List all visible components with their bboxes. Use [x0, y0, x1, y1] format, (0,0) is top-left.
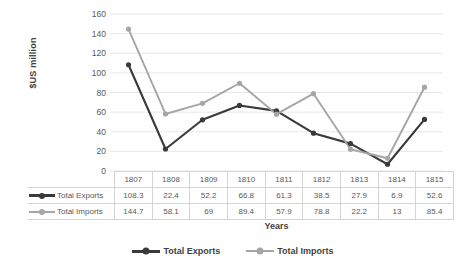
y-axis-tick-labels: 020406080100120140160 — [70, 14, 106, 171]
table-cell: 22.4 — [152, 188, 190, 204]
data-point — [237, 81, 242, 86]
table-cell: 144.7 — [115, 204, 153, 220]
legend-item-exports[interactable]: Total Exports — [132, 246, 220, 256]
data-point — [126, 62, 131, 67]
series-key-label: Total Imports — [55, 207, 103, 216]
series-key-line-icon — [29, 211, 55, 213]
table-cell: 22.2 — [340, 204, 378, 220]
data-point — [385, 156, 390, 161]
legend-label: Total Imports — [277, 246, 333, 256]
data-point — [385, 162, 390, 167]
table-year-header: 1810 — [227, 172, 265, 188]
table-cell: 61.3 — [265, 188, 303, 204]
series-key-imports: Total Imports — [29, 207, 103, 216]
data-point — [163, 146, 168, 151]
table-cell: 58.1 — [152, 204, 190, 220]
table-year-header: 1808 — [152, 172, 190, 188]
y-tick-label: 100 — [72, 68, 106, 78]
table-cell: 69 — [190, 204, 228, 220]
plot-area — [110, 14, 443, 171]
y-tick-label: 80 — [72, 88, 106, 98]
data-point — [348, 147, 353, 152]
table-cell: 38.5 — [303, 188, 341, 204]
legend-item-imports[interactable]: Total Imports — [246, 246, 333, 256]
table-cell: 85.4 — [416, 204, 454, 220]
series-line-total-imports — [129, 29, 425, 158]
table-year-header: 1815 — [416, 172, 454, 188]
y-tick-label: 160 — [72, 9, 106, 19]
table-row: Total Imports144.758.16989.457.978.822.2… — [28, 204, 453, 220]
series-lines — [129, 29, 425, 164]
data-point — [274, 112, 279, 117]
data-point — [311, 91, 316, 96]
data-point — [237, 103, 242, 108]
table-row: Total Exports108.322.452.266.861.338.527… — [28, 188, 453, 204]
table-cell: 89.4 — [227, 204, 265, 220]
table-corner-cell — [28, 172, 115, 188]
table-cell: 52.2 — [190, 188, 228, 204]
data-point — [422, 117, 427, 122]
table-cell: 108.3 — [115, 188, 153, 204]
table-year-header: 1813 — [340, 172, 378, 188]
line-chart-svg — [110, 14, 443, 171]
table-year-header: 1811 — [265, 172, 303, 188]
legend-line-icon — [132, 250, 160, 253]
table-cell: 57.9 — [265, 204, 303, 220]
legend-marker-icon — [143, 248, 150, 255]
legend-label: Total Exports — [163, 246, 220, 256]
data-table: 180718081809181018111812181318141815Tota… — [28, 171, 454, 220]
table-year-header: 1807 — [115, 172, 153, 188]
data-point — [422, 85, 427, 90]
data-point — [200, 117, 205, 122]
data-point — [311, 131, 316, 136]
table-cell: 6.9 — [378, 188, 416, 204]
x-axis-title: Years — [110, 221, 443, 231]
table-year-header: 1812 — [303, 172, 341, 188]
series-key-marker-icon — [39, 209, 45, 215]
data-point — [200, 101, 205, 106]
series-key-line-icon — [29, 194, 55, 197]
y-axis-title: $US million — [28, 8, 38, 118]
chart-figure: $US million 020406080100120140160 180718… — [0, 0, 466, 268]
legend-line-icon — [246, 250, 274, 253]
legend-marker-icon — [257, 248, 264, 255]
table-cell: 78.8 — [303, 204, 341, 220]
y-tick-label: 140 — [72, 29, 106, 39]
chart-legend: Total ExportsTotal Imports — [0, 246, 466, 256]
table-row-header: Total Imports — [28, 204, 115, 220]
y-tick-label: 120 — [72, 48, 106, 58]
table-cell: 52.6 — [416, 188, 454, 204]
table-cell: 66.8 — [227, 188, 265, 204]
table-year-header: 1814 — [378, 172, 416, 188]
table-header-row: 180718081809181018111812181318141815 — [28, 172, 453, 188]
series-key-label: Total Exports — [55, 191, 103, 200]
series-key-marker-icon — [39, 193, 45, 199]
y-tick-label: 40 — [72, 127, 106, 137]
data-point — [126, 26, 131, 31]
y-tick-label: 20 — [72, 146, 106, 156]
table-cell: 13 — [378, 204, 416, 220]
y-tick-label: 60 — [72, 107, 106, 117]
data-point — [163, 111, 168, 116]
table-year-header: 1809 — [190, 172, 228, 188]
table-cell: 27.9 — [340, 188, 378, 204]
series-key-exports: Total Exports — [29, 191, 103, 200]
data-point — [348, 141, 353, 146]
table-row-header: Total Exports — [28, 188, 115, 204]
